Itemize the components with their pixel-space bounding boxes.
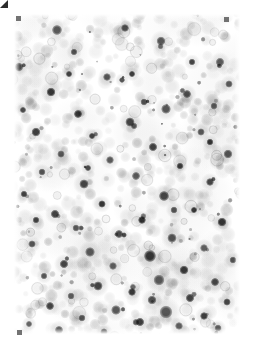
registration-mark-top-left-icon <box>16 16 21 21</box>
microscopy-field <box>14 14 240 334</box>
registration-mark-bottom-left-icon <box>17 330 22 335</box>
registration-mark-bottom-right-icon <box>0 0 8 8</box>
microscopy-canvas <box>14 14 240 334</box>
registration-mark-top-right-icon <box>224 17 229 22</box>
page-title: Microscopy Field <box>0 21 1 22</box>
microscopy-viewport: Microscopy Field <box>0 0 254 348</box>
